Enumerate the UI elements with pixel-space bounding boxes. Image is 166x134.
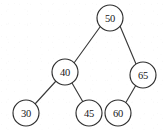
edge-50-65 (120, 26, 136, 64)
edge-65-60 (125, 85, 136, 104)
edge-50-40 (74, 27, 100, 63)
tree-node-30[interactable]: 30 (13, 100, 39, 126)
node-label-60: 60 (113, 108, 123, 119)
edge-40-45 (72, 83, 83, 102)
binary-search-tree-figure: 50 40 65 30 45 60 (0, 0, 166, 134)
node-label-30: 30 (21, 108, 31, 119)
node-label-65: 65 (138, 70, 148, 81)
node-label-45: 45 (84, 108, 94, 119)
tree-node-50[interactable]: 50 (97, 5, 123, 31)
tree-node-65[interactable]: 65 (130, 62, 156, 88)
node-label-40: 40 (60, 67, 70, 78)
tree-node-60[interactable]: 60 (105, 100, 131, 126)
edge-group (35, 26, 136, 104)
tree-node-45[interactable]: 45 (76, 100, 102, 126)
node-group: 50 40 65 30 45 60 (13, 5, 156, 126)
edge-40-30 (35, 81, 56, 104)
tree-node-40[interactable]: 40 (52, 59, 78, 85)
tree-canvas: 50 40 65 30 45 60 (0, 0, 166, 134)
node-label-50: 50 (105, 13, 115, 24)
